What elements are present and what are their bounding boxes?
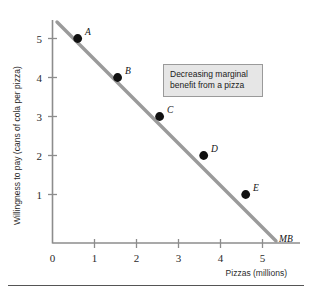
y-tick-label-5: 5 (37, 33, 43, 45)
y-tick-label-4: 4 (37, 72, 43, 84)
x-tick-label-0: 0 (50, 252, 56, 264)
annotation-decreasing-marginal-benefit: Decreasing marginal benefit from a pizza (163, 64, 263, 97)
marginal-benefit-figure: 5 4 3 2 1 0 1 2 3 4 5 Pizzas (millions) … (0, 0, 312, 294)
y-tick-label-1: 1 (37, 189, 43, 201)
data-point-a (73, 34, 82, 43)
chart-canvas: 5 4 3 2 1 0 1 2 3 4 5 Pizzas (millions) … (0, 0, 312, 294)
x-tick-label-5: 5 (260, 252, 266, 264)
data-point-e (241, 190, 250, 199)
annotation-line-2: benefit from a pizza (170, 80, 257, 91)
data-points: A B C D E (73, 27, 259, 199)
x-tick-label-3: 3 (176, 252, 182, 264)
footer-divider (8, 285, 304, 286)
data-point-label-a: A (84, 27, 91, 37)
data-point-b (113, 73, 122, 82)
y-axis-title: Willingness to pay (cans of cola per piz… (12, 66, 22, 225)
y-axis-ticks: 5 4 3 2 1 (37, 33, 58, 201)
data-point-c (155, 112, 164, 121)
x-tick-label-1: 1 (92, 252, 98, 264)
data-point-label-e: E (252, 183, 259, 193)
x-axis-title: Pizzas (millions) (226, 268, 288, 278)
data-point-d (199, 151, 208, 160)
data-point-label-d: D (210, 144, 218, 154)
annotation-line-1: Decreasing marginal (170, 69, 257, 80)
data-point-label-c: C (167, 105, 174, 115)
x-tick-label-4: 4 (218, 252, 224, 264)
data-point-label-b: B (125, 66, 131, 76)
y-tick-label-3: 3 (37, 111, 43, 123)
y-tick-label-2: 2 (37, 150, 43, 162)
marginal-benefit-curve (57, 22, 276, 241)
x-tick-label-2: 2 (134, 252, 140, 264)
curve-label-mb: MB (278, 234, 293, 244)
